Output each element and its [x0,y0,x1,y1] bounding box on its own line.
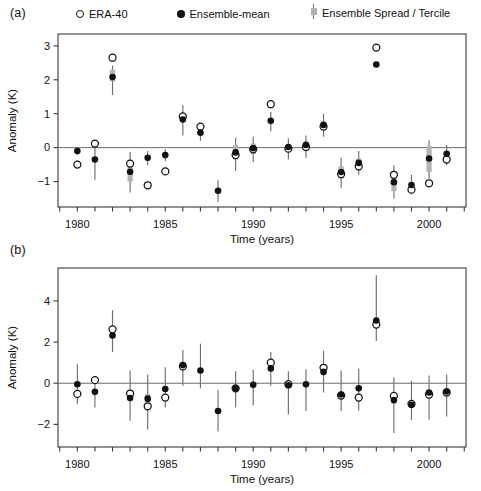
svg-text:Time (years): Time (years) [230,473,294,485]
svg-text:1990: 1990 [241,458,265,470]
svg-text:4: 4 [44,295,50,307]
panel-b-plot: 19801985199019952000Time (years)420−2Ano… [0,0,481,491]
svg-text:2: 2 [44,336,50,348]
svg-text:1985: 1985 [153,458,177,470]
figure-root: ERA-40 Ensemble-mean Ensemble Spread / T… [0,0,481,491]
svg-text:2000: 2000 [417,458,441,470]
svg-text:1995: 1995 [329,458,353,470]
svg-text:1980: 1980 [65,458,89,470]
svg-text:0: 0 [44,377,50,389]
svg-text:−2: −2 [37,418,50,430]
svg-text:Anomaly (K): Anomaly (K) [6,326,18,389]
